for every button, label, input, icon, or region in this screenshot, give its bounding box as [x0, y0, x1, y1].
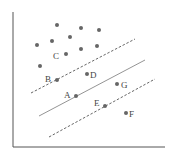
- point-label-e: E: [94, 98, 100, 108]
- data-point: [79, 26, 83, 30]
- data-point: [68, 35, 72, 39]
- data-point-e: [103, 104, 107, 108]
- data-point: [55, 23, 59, 27]
- svm-diagram: ABCDEFG: [0, 0, 172, 155]
- data-point: [95, 44, 99, 48]
- diagram-canvas: ABCDEFG: [0, 0, 172, 155]
- point-label-g: G: [121, 80, 128, 90]
- data-point-b: [55, 78, 59, 82]
- point-label-d: D: [90, 70, 97, 80]
- point-label-a: A: [64, 90, 71, 100]
- point-label-c: C: [53, 51, 59, 61]
- data-point: [97, 28, 101, 32]
- data-point: [35, 43, 39, 47]
- data-point: [79, 47, 83, 51]
- data-point: [50, 39, 54, 43]
- data-point-d: [85, 72, 89, 76]
- lower-margin-line: [49, 79, 155, 137]
- data-point-f: [124, 111, 128, 115]
- upper-margin-line: [31, 39, 135, 93]
- data-point: [38, 64, 42, 68]
- point-label-b: B: [45, 74, 51, 84]
- data-point-g: [115, 82, 119, 86]
- data-point-c: [64, 52, 68, 56]
- decision-boundary-line: [39, 60, 145, 116]
- point-label-f: F: [129, 109, 134, 119]
- data-point-a: [74, 94, 78, 98]
